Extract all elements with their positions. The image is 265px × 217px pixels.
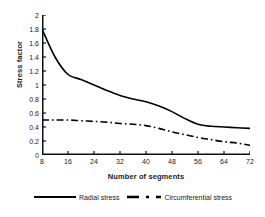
x-tick-label: 56 (194, 158, 202, 165)
y-tick-label: 1.4 (29, 54, 39, 61)
x-tick-label: 48 (168, 158, 176, 165)
plot-svg (42, 15, 250, 155)
y-tick-label: 0.2 (29, 138, 39, 145)
x-tick-label: 72 (246, 158, 254, 165)
y-tick-label: 1.8 (29, 26, 39, 33)
x-tick-label: 40 (142, 158, 150, 165)
y-tick-label: 0.8 (29, 96, 39, 103)
x-tick-label: 32 (116, 158, 124, 165)
y-axis-title: Stress factor (15, 10, 24, 120)
y-tick-label: 1.2 (29, 68, 39, 75)
legend-entry-radial-stress: Radial stress (33, 193, 119, 201)
x-tick-label: 64 (220, 158, 228, 165)
legend-swatch-dash-dot-icon (126, 193, 162, 201)
series-line-radial-stress (42, 29, 250, 128)
legend-label-circumferential-stress: Circumferential stress (164, 194, 232, 201)
y-tick-label: 1.6 (29, 40, 39, 47)
y-tick-label: 1 (35, 82, 39, 89)
x-tick-label: 16 (64, 158, 72, 165)
y-tick-label: 2 (35, 12, 39, 19)
legend-label-radial-stress: Radial stress (79, 194, 119, 201)
y-tick-label: 0.4 (29, 124, 39, 131)
x-axis-title: Number of segments (42, 172, 250, 181)
y-tick-label: 0 (35, 152, 39, 159)
legend-swatch-solid-icon (33, 193, 77, 201)
axis-lines (42, 15, 250, 155)
series-line-circumferential-stress (42, 120, 250, 145)
y-tick-label: 0.6 (29, 110, 39, 117)
x-tick-label: 8 (40, 158, 44, 165)
x-tick-label: 24 (90, 158, 98, 165)
stress-factor-chart: Stress factor 00.20.40.60.811.21.41.61.8… (0, 0, 265, 217)
chart-legend: Radial stress Circumferential stress (0, 193, 265, 201)
plot-area: 00.20.40.60.811.21.41.61.82 816243240485… (42, 15, 250, 155)
legend-entry-circumferential-stress: Circumferential stress (126, 193, 232, 201)
